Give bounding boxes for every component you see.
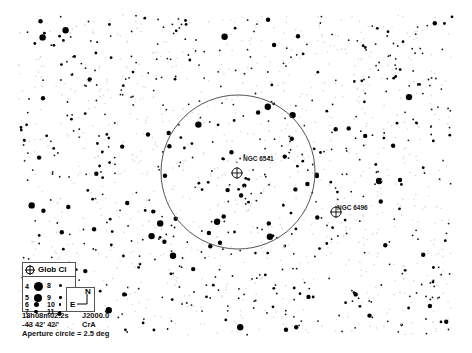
globular-cluster-icon[interactable]: [231, 167, 243, 179]
epoch: J2000.0: [82, 311, 109, 320]
object-label: NGC 6541: [243, 155, 274, 162]
chart-info: 18h08m02.2sJ2000.0 -43 42' 42"CrA Apertu…: [22, 311, 109, 338]
magnitude-entry: 10: [47, 301, 61, 308]
star-size-icon: [34, 302, 39, 307]
compass-north: N: [85, 287, 91, 296]
legend-header: Glob Cl: [23, 263, 75, 277]
center-ra: 18h08m02.2s: [22, 311, 82, 320]
magnitude-entry: 4: [25, 282, 43, 291]
star-size-icon: [59, 296, 62, 299]
star-size-icon: [59, 303, 61, 305]
compass-box: N E: [66, 287, 95, 312]
magnitude-label: 8: [47, 282, 55, 289]
star-size-icon: [59, 284, 62, 287]
object-label: NGC 6496: [337, 204, 368, 211]
compass-east: E: [70, 300, 75, 309]
aperture-size: Aperture circle = 2.5 deg: [22, 329, 109, 338]
magnitude-label: 9: [47, 294, 55, 301]
magnitude-entry: 9: [47, 294, 62, 301]
magnitude-entry: 6: [25, 301, 39, 308]
magnitude-label: 4: [25, 283, 33, 290]
constellation: CrA: [82, 320, 96, 329]
magnitude-entry: 8: [47, 282, 62, 289]
legend-title: Glob Cl: [38, 265, 66, 274]
magnitude-label: 6: [25, 301, 33, 308]
star-size-icon: [34, 282, 43, 291]
magnitude-label: 10: [47, 301, 55, 308]
center-dec: -43 42' 42": [22, 320, 82, 329]
globular-cluster-icon: [25, 265, 35, 275]
